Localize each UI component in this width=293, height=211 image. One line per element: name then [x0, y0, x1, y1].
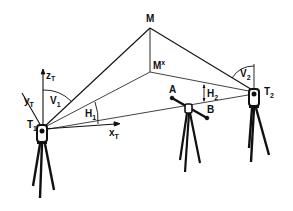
- point-B-marker: [205, 116, 209, 120]
- label-z-T: zT: [46, 70, 56, 82]
- bar-mount: [185, 104, 192, 113]
- t2-lens: [252, 92, 257, 97]
- label-A: A: [169, 84, 176, 95]
- t1-axes: [22, 69, 120, 129]
- line-T1-T2-baseline: [43, 94, 254, 130]
- tripod-leg: [256, 108, 269, 155]
- z-axis-arrow-icon: [41, 69, 45, 74]
- labels: M Mx zT yT xT V1 H1 V2 H2 T1 T2 A B: [24, 13, 274, 140]
- surveying-diagram: M Mx zT yT xT V1 H1 V2 H2 T1 T2 A B: [0, 0, 293, 211]
- label-x-T: xT: [109, 127, 120, 140]
- theodolite-T1: [33, 125, 54, 198]
- label-V1: V1: [50, 95, 61, 108]
- tripod-leg: [190, 113, 200, 163]
- line-M-T2: [150, 28, 254, 91]
- label-T1: T1: [27, 119, 37, 132]
- label-H1: H1: [85, 108, 96, 121]
- arc-V1: [43, 90, 71, 101]
- label-M-star: Mx: [153, 59, 165, 71]
- tripod-leg: [45, 144, 54, 190]
- tripod-leg: [33, 144, 40, 186]
- point-A-marker: [170, 96, 174, 100]
- x-axis: [43, 124, 116, 129]
- t2-base: [249, 105, 259, 108]
- label-M: M: [146, 13, 154, 24]
- label-y-T: yT: [24, 95, 35, 108]
- t1-base: [37, 141, 47, 144]
- label-B: B: [207, 104, 214, 115]
- line-T1-M: [43, 28, 150, 128]
- h2-arrow-up-icon: [203, 84, 206, 88]
- line-T1-Mstar: [43, 72, 150, 128]
- label-H2: H2: [207, 88, 218, 101]
- diagram-canvas: M Mx zT yT xT V1 H1 V2 H2 T1 T2 A B: [0, 0, 293, 211]
- h2-arrow-down-icon: [203, 98, 206, 102]
- theodolite-T2: [249, 89, 269, 162]
- t1-lens: [40, 129, 45, 134]
- label-V2: V2: [240, 68, 251, 81]
- tripod-leg: [40, 144, 42, 198]
- sight-lines: [43, 28, 254, 130]
- x-axis-arrow-icon: [114, 122, 120, 126]
- label-T2: T2: [264, 86, 274, 99]
